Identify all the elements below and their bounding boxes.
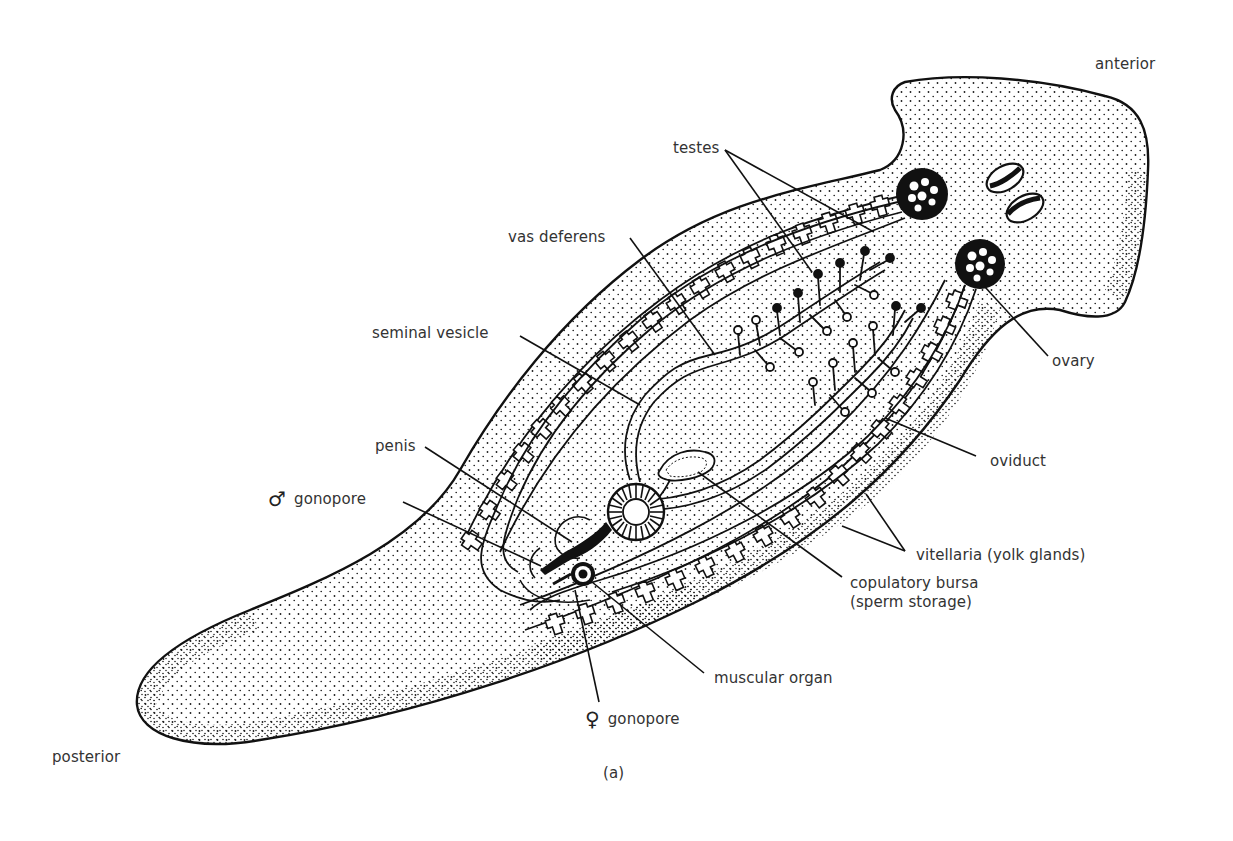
- label-female-gonopore: ♀gonopore: [585, 710, 680, 728]
- label-anterior: anterior: [1095, 55, 1155, 73]
- male-symbol-icon: ♂: [268, 487, 286, 511]
- label-vitellaria: vitellaria (yolk glands): [916, 546, 1085, 564]
- figure-caption: (a): [603, 764, 624, 782]
- ovary-upper: [896, 168, 948, 220]
- label-copulatory-bursa: copulatory bursa (sperm storage): [850, 574, 979, 612]
- female-symbol-icon: ♀: [585, 707, 600, 731]
- female-gonopore-text: gonopore: [608, 710, 680, 728]
- label-ovary: ovary: [1052, 352, 1095, 370]
- label-posterior: posterior: [52, 748, 120, 766]
- label-seminal-vesicle: seminal vesicle: [372, 324, 489, 342]
- label-oviduct: oviduct: [990, 452, 1046, 470]
- label-testes: testes: [673, 139, 719, 157]
- copulatory-bursa-line1: copulatory bursa: [850, 574, 979, 593]
- ovary-lower: [955, 239, 1005, 289]
- copulatory-bursa-line2: (sperm storage): [850, 593, 979, 612]
- male-gonopore-text: gonopore: [294, 490, 366, 508]
- label-vas-deferens: vas deferens: [508, 228, 606, 246]
- label-penis: penis: [375, 437, 416, 455]
- label-muscular-organ: muscular organ: [714, 669, 833, 687]
- label-male-gonopore: ♂gonopore: [268, 490, 366, 508]
